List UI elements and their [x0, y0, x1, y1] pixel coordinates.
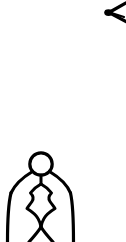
- line-drawing: [0, 0, 126, 242]
- chevron-vertex-dot: [104, 9, 113, 16]
- background: [0, 0, 126, 242]
- drawing-canvas: Line Drawing black ink line drawing on w…: [0, 0, 126, 242]
